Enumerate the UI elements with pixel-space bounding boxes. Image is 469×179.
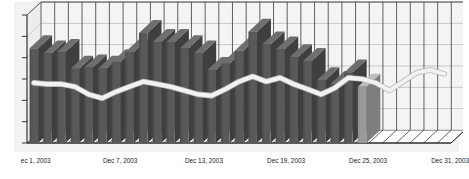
x-axis-tick-label: Dec 13, 2003 <box>185 157 223 164</box>
x-axis-tick-label: Dec 7, 2003 <box>103 157 137 164</box>
x-axis-tick-label: Dec 19, 2003 <box>267 157 305 164</box>
x-axis-tick-label: Dec 25, 2003 <box>349 157 387 164</box>
x-axis-tick-label: Dec 31, 2003 <box>431 157 469 164</box>
x-axis-tick-label: ec 1, 2003 <box>21 157 51 164</box>
